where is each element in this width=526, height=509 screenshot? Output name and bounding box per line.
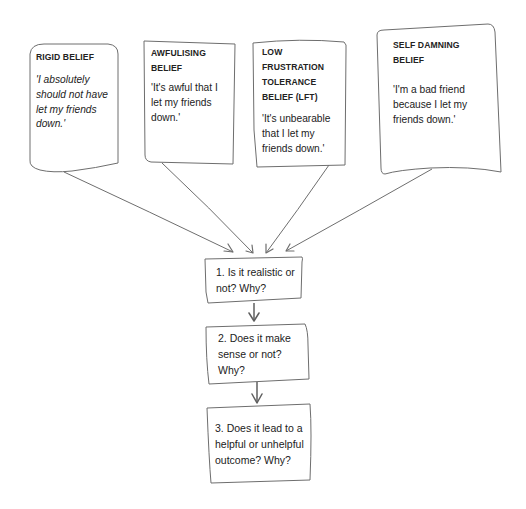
connector-belief-3	[266, 165, 329, 253]
belief-card-rigid: RIGID BELIEF 'I absolutely should not ha…	[36, 50, 116, 132]
question-box-2: 2. Does it make sense or not? Why?	[218, 330, 302, 378]
belief-card-self-damning: SELF DAMNING BELIEF 'I'm a bad friend be…	[393, 38, 493, 127]
belief-card-awfulising: AWFULISING BELIEF 'It's awful that I let…	[151, 46, 231, 125]
belief-title: LOW FRUSTRATION TOLERANCE BELIEF (LFT)	[262, 45, 344, 105]
belief-title: SELF DAMNING BELIEF	[393, 38, 493, 68]
question-box-1: 1. Is it realistic or not? Why?	[216, 264, 302, 296]
belief-title: AWFULISING BELIEF	[151, 46, 231, 76]
belief-quote: 'I absolutely should not have let my fri…	[36, 73, 116, 132]
connector-belief-1	[64, 172, 233, 252]
belief-title: RIGID BELIEF	[36, 50, 116, 65]
question-box-3: 3. Does it lead to a helpful or unhelpfu…	[215, 420, 311, 468]
question-text: 2. Does it make sense or not? Why?	[218, 332, 291, 376]
belief-quote: 'I'm a bad friend because I let my frien…	[393, 83, 493, 127]
connector-belief-4	[286, 169, 432, 251]
belief-quote: 'It's unbearable that I let my friends d…	[262, 112, 344, 156]
belief-card-low-frustration-tolerance: LOW FRUSTRATION TOLERANCE BELIEF (LFT) '…	[262, 45, 344, 156]
belief-quote: 'It's awful that I let my friends down.'	[151, 81, 231, 125]
question-text: 1. Is it realistic or not? Why?	[216, 266, 295, 294]
question-text: 3. Does it lead to a helpful or unhelpfu…	[215, 422, 304, 466]
